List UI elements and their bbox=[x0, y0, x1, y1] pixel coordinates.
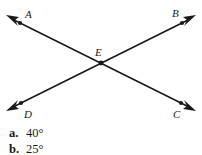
intersecting-lines-diagram: A B C D E bbox=[0, 0, 202, 122]
answer-choice-b-key: b. bbox=[9, 142, 22, 155]
answer-choice-b-value: 25° bbox=[26, 142, 44, 155]
vertex-label-b: B bbox=[172, 7, 179, 19]
vertex-dot-d bbox=[19, 101, 23, 105]
answer-choices-list: a.40° b.25° bbox=[0, 122, 202, 155]
answer-choice-a-value: 40° bbox=[26, 126, 44, 141]
vertex-label-e: E bbox=[94, 46, 102, 58]
arrowhead-a-icon bbox=[6, 15, 19, 26]
figure-page: A B C D E a.40° b.25° bbox=[0, 0, 202, 155]
answer-choice-b[interactable]: b.25° bbox=[9, 142, 44, 155]
answer-choice-a-key: a. bbox=[9, 126, 22, 141]
vertex-dot-a bbox=[18, 21, 22, 25]
answer-choice-a[interactable]: a.40° bbox=[9, 126, 44, 141]
vertex-label-c: C bbox=[173, 108, 181, 120]
vertex-dot-b bbox=[180, 21, 184, 25]
vertex-label-d: D bbox=[23, 108, 32, 120]
arrowhead-b-icon bbox=[183, 15, 196, 26]
vertex-dot-c bbox=[179, 101, 183, 105]
vertex-dot-e bbox=[99, 61, 104, 66]
vertex-label-a: A bbox=[24, 8, 32, 20]
geometry-figure: A B C D E bbox=[0, 0, 202, 122]
